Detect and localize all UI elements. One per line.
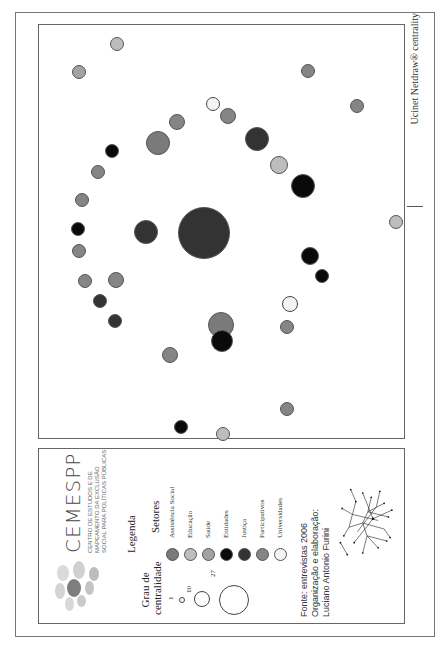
network-node	[291, 174, 315, 198]
network-node	[301, 247, 319, 265]
network-node	[350, 99, 364, 113]
network-node	[72, 65, 86, 79]
network-node	[280, 320, 294, 334]
network-node	[110, 37, 124, 51]
network-node	[105, 144, 119, 158]
network-node	[282, 296, 298, 312]
nodes-layer	[0, 0, 445, 647]
network-node	[108, 314, 122, 328]
software-credit: Ucinet Netdraw® centrality	[407, 7, 423, 207]
network-node	[178, 207, 230, 259]
network-node	[174, 420, 188, 434]
network-node	[78, 274, 92, 288]
network-node	[75, 193, 89, 207]
network-node	[146, 131, 170, 155]
figure-canvas: CEMESPP Centro de Estudos e de Mapeament…	[0, 0, 445, 647]
network-node	[245, 127, 269, 151]
network-node	[206, 97, 220, 111]
network-node	[169, 114, 185, 130]
network-node	[301, 64, 315, 78]
network-node	[71, 222, 85, 236]
network-node	[216, 427, 230, 441]
network-node	[93, 294, 107, 308]
network-node	[270, 156, 288, 174]
network-node	[91, 165, 105, 179]
network-node	[162, 347, 178, 363]
network-node	[315, 269, 329, 283]
network-node	[389, 215, 403, 229]
network-node	[220, 108, 236, 124]
network-node	[108, 272, 124, 288]
network-node	[134, 220, 158, 244]
network-node	[211, 330, 233, 352]
network-node	[280, 402, 294, 416]
network-node	[72, 244, 86, 258]
